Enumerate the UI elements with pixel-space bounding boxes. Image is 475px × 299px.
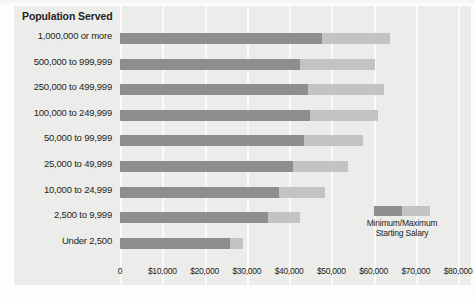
bar-segment-minimum	[120, 84, 308, 95]
category-label: Under 2,500	[0, 235, 112, 246]
bar-segment-minimum	[120, 59, 300, 70]
legend-label-line2: Starting Salary	[352, 228, 452, 238]
legend-swatches	[374, 206, 430, 216]
category-label: 2,500 to 9,999	[0, 209, 112, 220]
bar-segment-maximum	[304, 135, 363, 146]
bar-segment-maximum	[268, 212, 300, 223]
category-label: 250,000 to 499,999	[0, 81, 112, 92]
bar-segment-maximum	[230, 238, 243, 249]
category-label: 1,000,000 or more	[0, 30, 112, 41]
bar-segment-minimum	[120, 238, 230, 249]
bar-segment-maximum	[310, 110, 378, 121]
x-axis-tick-label: $10,000	[148, 266, 177, 276]
bar-segment-maximum	[300, 59, 375, 70]
x-axis-tick-label: $20,000	[190, 266, 219, 276]
category-axis: 1,000,000 or more500,000 to 999,999250,0…	[0, 0, 112, 279]
gridline	[416, 6, 418, 285]
x-axis-tick-label: 0	[118, 266, 122, 276]
category-label: 100,000 to 249,999	[0, 107, 112, 118]
category-label: 10,000 to 24,999	[0, 184, 112, 195]
bar-segment-minimum	[120, 161, 293, 172]
bar-segment-maximum	[279, 187, 325, 198]
category-label: 50,000 to 99,999	[0, 132, 112, 143]
gridline	[458, 6, 460, 285]
x-axis-tick-label: $40,000	[275, 266, 304, 276]
legend-label-line1: Minimum/Maximum	[352, 218, 452, 228]
chart-container: Population Served 1,000,000 or more500,0…	[0, 0, 475, 299]
x-axis-tick-label: $50,000	[317, 266, 346, 276]
bar-segment-minimum	[120, 33, 322, 44]
bar-segment-maximum	[293, 161, 348, 172]
gridline	[374, 6, 376, 285]
category-label: 500,000 to 999,999	[0, 56, 112, 67]
chart-legend: Minimum/Maximum Starting Salary	[352, 206, 452, 238]
bar-segment-minimum	[120, 212, 268, 223]
category-label: 25,000 to 49,999	[0, 158, 112, 169]
x-axis-tick-label: $30,000	[232, 266, 261, 276]
x-axis-tick-label: $70,000	[401, 266, 430, 276]
bar-segment-maximum	[322, 33, 390, 44]
x-axis-tick-label: $60,000	[359, 266, 388, 276]
legend-swatch-maximum	[402, 206, 430, 216]
bar-segment-minimum	[120, 135, 304, 146]
x-axis-tick-label: $80,000	[444, 266, 473, 276]
legend-swatch-minimum	[374, 206, 402, 216]
bar-segment-maximum	[308, 84, 383, 95]
bar-segment-minimum	[120, 187, 279, 198]
bar-segment-minimum	[120, 110, 310, 121]
